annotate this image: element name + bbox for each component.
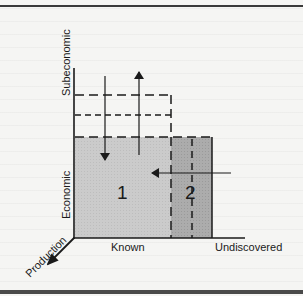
resource-diagram: Subeconomic Economic Known Undiscovered … (0, 0, 303, 296)
label-economic: Economic (60, 170, 72, 219)
region-1-label: 1 (117, 182, 128, 203)
label-subeconomic: Subeconomic (60, 29, 72, 96)
region-2-label: 2 (185, 182, 196, 203)
label-production: Production (23, 234, 69, 280)
label-undiscovered: Undiscovered (215, 241, 282, 253)
label-known: Known (111, 241, 145, 253)
